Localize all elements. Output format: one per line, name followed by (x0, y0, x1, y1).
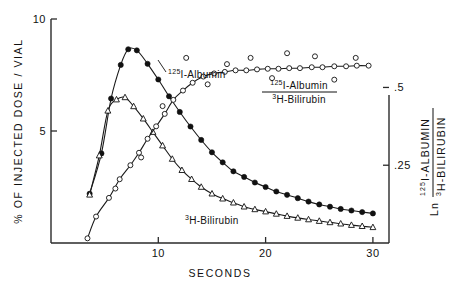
data-point-open-circle (128, 163, 133, 168)
annotation-albumin-sup: 125 (168, 68, 181, 75)
data-point-open-circle (154, 124, 159, 129)
y-axis-right-numerator: 125I-ALBUMIN (419, 118, 431, 196)
data-point-filled-circle (108, 96, 113, 101)
data-point-open-circle (145, 136, 150, 141)
y-axis-right-title: Ln 125I-ALBUMIN 3H-BILIRUBIN (419, 108, 447, 216)
data-point-open-circle-scatter (285, 51, 290, 56)
data-point-open-circle-scatter (332, 77, 337, 82)
data-point-filled-circle (220, 160, 225, 165)
annotation-albumin: 125I-Albumin (168, 68, 226, 80)
annotation-ratio-denominator: 3H-Bilirubin (272, 93, 326, 105)
annotation-bilirubin: 3H-Bilirubin (185, 214, 239, 226)
annotation-albumin-main: I-Albumin (181, 69, 226, 80)
annotation-bilirubin-main: H-Bilirubin (189, 215, 238, 226)
data-point-filled-circle (338, 206, 343, 211)
data-point-filled-circle (145, 61, 150, 66)
data-point-open-circle (190, 80, 195, 85)
data-point-open-circle-scatter (160, 104, 165, 109)
data-point-filled-circle (274, 189, 279, 194)
annotation-ratio-den-main: H-Bilirubin (276, 94, 325, 105)
data-point-open-triangle (209, 191, 215, 197)
y-axis-right-num-main: I-ALBUMIN (419, 118, 431, 181)
y-tick-label-right: .25 (394, 159, 411, 171)
data-point-open-circle (354, 63, 359, 68)
data-point-open-circle (320, 65, 325, 70)
data-point-open-circle (332, 64, 337, 69)
data-point-open-circle-scatter (113, 186, 118, 191)
data-point-open-circle-scatter (248, 55, 253, 60)
y-tick-label-left: 5 (39, 125, 46, 137)
data-point-open-triangle (198, 184, 204, 190)
data-point-open-circle-scatter (353, 55, 358, 60)
annotation-leader-line (158, 60, 166, 72)
data-point-filled-circle (263, 184, 268, 189)
data-point-open-circle-scatter (139, 155, 144, 160)
y-axis-left-title: % OF INJECTED DOSE / VIAL (12, 38, 24, 223)
data-point-filled-circle (327, 204, 332, 209)
data-point-filled-circle (360, 209, 365, 214)
data-point-open-circle (265, 66, 270, 71)
y-tick-label-right: .5 (394, 81, 404, 93)
annotation-ratio: 125I-Albumin 3H-Bilirubin (262, 79, 337, 105)
data-point-open-circle (297, 66, 302, 71)
y-axis-right-den-main: H-BILIRUBIN (435, 116, 447, 191)
y-tick-label-left: 10 (33, 13, 46, 25)
x-tick-label: 10 (152, 247, 165, 259)
series-open-circle (85, 51, 371, 241)
annotation-ratio-numerator: 125I-Albumin (270, 79, 328, 91)
data-point-filled-circle (252, 180, 257, 185)
data-point-open-circle (94, 214, 99, 219)
data-series-layer (85, 47, 376, 241)
data-point-open-circle (180, 88, 185, 93)
data-point-filled-circle (306, 199, 311, 204)
y-axis-right-denominator: 3H-BILIRUBIN (435, 116, 447, 196)
series-open-triangle (87, 94, 376, 229)
series-line (90, 48, 373, 214)
y-axis-right-num-sup: 125 (419, 181, 426, 196)
y-axis-right-ln: Ln (428, 202, 440, 216)
x-axis-title: SECONDS (188, 267, 251, 279)
data-point-open-circle (85, 236, 90, 241)
data-point-filled-circle (209, 150, 214, 155)
figure-panel: 102030105.5.25 SECONDS % OF INJECTED DOS… (0, 0, 463, 287)
data-point-open-circle-scatter (205, 82, 210, 87)
data-point-open-circle (309, 65, 314, 70)
data-point-open-triangle (105, 108, 111, 114)
series-filled-circle (87, 47, 375, 216)
data-point-open-circle-scatter (184, 55, 189, 60)
data-point-open-circle-scatter (312, 54, 317, 59)
data-point-filled-circle (118, 62, 123, 67)
data-point-filled-circle (126, 47, 131, 52)
data-point-filled-circle (156, 77, 161, 82)
x-tick-label: 20 (259, 247, 272, 259)
x-tick-label: 30 (366, 247, 379, 259)
data-point-filled-circle (295, 196, 300, 201)
data-point-filled-circle (242, 174, 247, 179)
data-point-filled-circle (349, 208, 354, 213)
data-point-open-circle (244, 68, 249, 73)
data-point-open-circle (366, 63, 371, 68)
data-point-filled-circle (199, 137, 204, 142)
data-point-open-triangle (114, 96, 120, 102)
data-point-open-circle (233, 68, 238, 73)
data-point-open-circle (255, 67, 260, 72)
data-point-open-circle (106, 195, 111, 200)
data-point-open-circle (276, 66, 281, 71)
annotation-ratio-num-sup: 125 (270, 79, 283, 86)
data-point-filled-circle (177, 109, 182, 114)
data-point-open-circle (344, 64, 349, 69)
annotation-ratio-num-main: I-Albumin (283, 80, 328, 91)
data-point-open-circle (162, 111, 167, 116)
data-point-filled-circle (317, 202, 322, 207)
data-point-filled-circle (188, 124, 193, 129)
data-point-open-circle (171, 97, 176, 102)
y-axis-right-fraction: 125I-ALBUMIN 3H-BILIRUBIN (419, 108, 447, 197)
scatter-line-chart: 102030105.5.25 SECONDS % OF INJECTED DOS… (0, 0, 463, 287)
data-point-open-circle (117, 177, 122, 182)
data-point-filled-circle (284, 192, 289, 197)
data-point-filled-circle (134, 48, 139, 53)
data-point-filled-circle (166, 94, 171, 99)
data-point-open-circle (287, 66, 292, 71)
data-point-filled-circle (231, 169, 236, 174)
data-point-open-circle-scatter (224, 62, 229, 67)
